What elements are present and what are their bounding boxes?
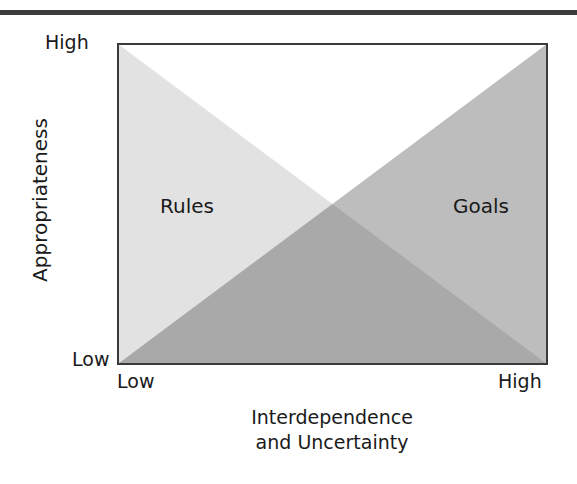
- top-rule-divider: [0, 10, 577, 15]
- x-tick-high: High: [498, 372, 542, 391]
- x-tick-low: Low: [117, 372, 154, 391]
- goals-label: Goals: [453, 196, 509, 216]
- rules-label: Rules: [160, 196, 214, 216]
- y-axis-title: Appropriateness: [30, 118, 50, 282]
- x-axis-title: Interdependence and Uncertainty: [251, 405, 413, 455]
- y-tick-high: High: [45, 33, 89, 52]
- x-axis-title-line1: Interdependence: [251, 405, 413, 430]
- y-tick-low: Low: [72, 350, 109, 369]
- x-axis-title-line2: and Uncertainty: [251, 430, 413, 455]
